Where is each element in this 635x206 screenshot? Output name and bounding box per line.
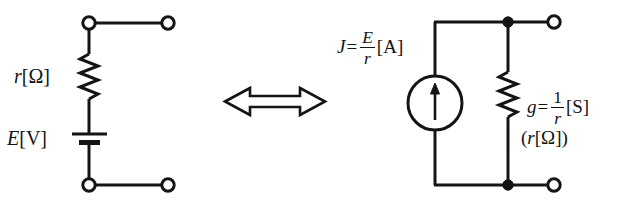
left-circuit-group — [72, 17, 174, 191]
circuit-equivalence-figure: r[Ω] E[V] J= E r [A] g= 1 r [S] (r[Ω]) — [0, 0, 635, 206]
left-resistor-label: r[Ω] — [14, 66, 50, 86]
double-headed-arrow-icon — [225, 88, 325, 115]
left-source-symbol: E — [7, 127, 19, 149]
left-terminal-top-right — [162, 17, 174, 29]
right-terminal-top — [548, 16, 560, 28]
right-terminal-bottom — [548, 179, 560, 191]
right-source-symbol: J — [337, 36, 345, 57]
right-junction-dot-top — [503, 17, 513, 27]
left-terminal-bottom-left — [83, 179, 95, 191]
right-resistance-note: (r[Ω]) — [521, 128, 568, 147]
note-symbol: r — [527, 127, 534, 148]
left-resistor-symbol: r — [14, 65, 22, 87]
right-conductance-label: g= 1 r [S] — [527, 89, 589, 129]
right-conductance-equals: = — [538, 96, 549, 117]
right-conductance-unit: [S] — [566, 96, 589, 117]
right-conductance-fraction: 1 r — [551, 88, 564, 128]
left-resistor-unit: [Ω] — [22, 65, 50, 87]
right-source-unit: [A] — [377, 36, 403, 57]
left-source-label: E[V] — [7, 128, 47, 148]
note-unit: [Ω] — [535, 127, 562, 148]
left-terminal-bottom-right — [162, 179, 174, 191]
right-source-fraction: E r — [360, 28, 375, 68]
left-resistor-zigzag — [80, 54, 98, 99]
right-source-denominator: r — [360, 48, 375, 67]
left-terminal-top-left — [83, 17, 95, 29]
right-source-label: J= E r [A] — [337, 29, 403, 69]
right-source-numerator: E — [360, 28, 375, 47]
equivalence-arrow-group — [225, 88, 325, 115]
left-source-unit: [V] — [19, 127, 47, 149]
right-resistor-zigzag — [499, 72, 517, 117]
right-junction-dot-bottom — [503, 180, 513, 190]
right-source-equals: = — [346, 36, 357, 57]
note-close-paren: ) — [562, 127, 568, 148]
right-conductance-denominator: r — [551, 108, 564, 127]
right-conductance-symbol: g — [527, 96, 537, 117]
right-conductance-numerator: 1 — [551, 88, 564, 107]
